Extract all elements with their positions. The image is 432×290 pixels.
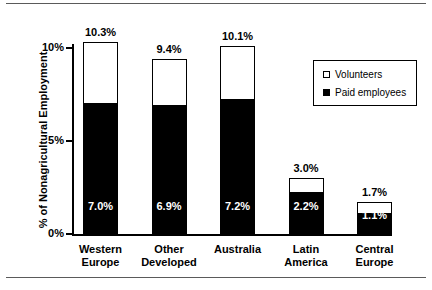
bar-paid-value-label: 7.0% xyxy=(66,200,136,212)
y-tick-mark xyxy=(66,47,72,49)
bar-total-label: 9.4% xyxy=(134,43,204,55)
bar-total-label: 3.0% xyxy=(271,162,341,174)
category-label-line: Europe xyxy=(332,256,418,269)
bar-segment-volunteers[interactable] xyxy=(221,47,254,101)
legend-swatch-paid-employees-icon xyxy=(323,89,330,96)
bar-paid-value-label: 1.1% xyxy=(340,209,410,221)
y-tick-label: 5% xyxy=(24,134,64,146)
bar-total-label: 10.3% xyxy=(66,26,136,38)
x-axis-line xyxy=(72,234,392,236)
y-tick-mark xyxy=(66,233,72,235)
bar-segment-paid-employees[interactable] xyxy=(290,192,323,233)
top-frame-rule xyxy=(6,3,426,4)
bar-paid-value-label: 7.2% xyxy=(203,200,273,212)
legend-label-volunteers: Volunteers xyxy=(335,69,382,80)
bar-segment-volunteers[interactable] xyxy=(153,60,186,107)
category-label-line: Central xyxy=(332,243,418,256)
bar-total-label: 1.7% xyxy=(340,186,410,198)
bar-segment-paid-employees[interactable] xyxy=(84,103,117,233)
bar-total-label: 10.1% xyxy=(203,30,273,42)
bar-segment-paid-employees[interactable] xyxy=(153,105,186,233)
legend-swatch-volunteers-icon xyxy=(323,71,330,78)
bar-paid-value-label: 6.9% xyxy=(134,200,204,212)
bar-paid-value-label: 2.2% xyxy=(271,200,341,212)
chart-canvas: % of Nonagricultural Employment 0%5%10% … xyxy=(0,0,432,290)
y-tick-label: 10% xyxy=(24,41,64,53)
bottom-frame-rule xyxy=(6,277,426,278)
y-tick-mark xyxy=(66,140,72,142)
bar-segment-volunteers[interactable] xyxy=(84,43,117,104)
legend-item-volunteers[interactable]: Volunteers xyxy=(323,69,382,80)
legend-item-paid-employees[interactable]: Paid employees xyxy=(323,87,406,98)
legend-label-paid-employees: Paid employees xyxy=(335,87,406,98)
category-label-line: Developed xyxy=(126,256,212,269)
bar-segment-paid-employees[interactable] xyxy=(221,99,254,233)
chart-legend: Volunteers Paid employees xyxy=(313,60,417,106)
x-axis-category-label: CentralEurope xyxy=(332,243,418,269)
y-tick-label: 0% xyxy=(24,227,64,239)
